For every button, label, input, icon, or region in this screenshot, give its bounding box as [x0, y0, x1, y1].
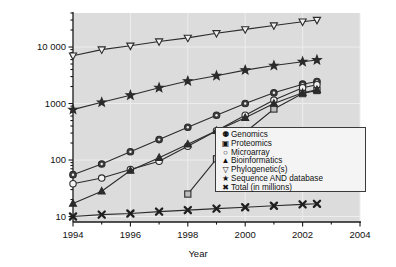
y-tick-label: 1000 — [0, 98, 66, 109]
data-point-star — [298, 57, 307, 65]
x-tick-label: 2002 — [292, 229, 313, 240]
data-point-circle-filled — [213, 112, 220, 119]
legend-item-label: Total (in millions) — [231, 184, 292, 193]
data-point-circle-filled — [70, 171, 77, 178]
data-point-circle-open — [70, 181, 76, 187]
data-point-star — [69, 105, 78, 113]
data-point-star — [270, 61, 279, 69]
data-point-circle-filled — [185, 124, 192, 131]
y-tick-label: 10 — [0, 211, 66, 222]
series-line — [73, 204, 317, 217]
x-axis-label: Year — [188, 248, 207, 259]
y-tick-label: 10 000 — [0, 41, 66, 52]
data-point-star — [212, 71, 221, 79]
data-point-circle-filled — [127, 148, 134, 155]
legend-marker-icon: ✖ — [220, 184, 231, 193]
data-point-circle-open — [99, 175, 105, 181]
data-point-square-open — [271, 106, 277, 112]
data-point-star — [155, 83, 164, 91]
y-tick-label: 100 — [0, 154, 66, 165]
x-tick-label: 1998 — [177, 229, 198, 240]
series-sequence-and-database — [69, 55, 322, 113]
x-tick-label: 2000 — [235, 229, 256, 240]
data-point-circle-filled — [98, 161, 105, 168]
data-point-star — [97, 98, 106, 106]
data-point-square-open — [185, 191, 191, 197]
legend-item: ✖Total (in millions) — [220, 184, 361, 193]
series-line — [73, 60, 317, 110]
figure-chart: Number of articles Year ⚉Genomics▣Proteo… — [0, 0, 396, 267]
x-tick-label: 2004 — [349, 229, 370, 240]
x-tick-label: 1996 — [120, 229, 141, 240]
data-point-circle-filled — [271, 89, 278, 96]
axes — [69, 12, 362, 227]
data-point-star — [241, 66, 250, 74]
series-phylogenetic-s — [69, 17, 320, 59]
data-point-star — [126, 91, 135, 99]
x-tick-label: 1994 — [62, 229, 83, 240]
data-point-circle-filled — [156, 136, 163, 143]
data-point-circle-filled — [242, 100, 249, 107]
series-line — [73, 20, 317, 56]
data-point-triangle-up — [98, 187, 105, 194]
data-point-star — [313, 55, 322, 63]
chart-legend: ⚉Genomics▣Proteomics○Microarray▲Bioinfor… — [215, 127, 366, 192]
data-point-star — [183, 76, 192, 84]
